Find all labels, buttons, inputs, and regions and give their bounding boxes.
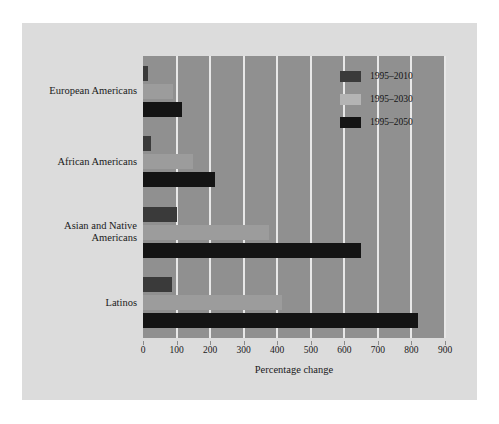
category-label-line: African Americans xyxy=(0,156,137,168)
plot-area: 1995–20101995–20301995–2050 xyxy=(143,56,445,338)
x-tick-label-700: 700 xyxy=(371,345,385,355)
bar-group xyxy=(143,277,445,328)
x-tick-label-600: 600 xyxy=(337,345,351,355)
legend-label: 1995–2010 xyxy=(370,71,413,81)
bar xyxy=(143,225,269,240)
x-axis-label: Percentage change xyxy=(143,364,445,375)
legend-item: 1995–2010 xyxy=(340,66,413,86)
bar-group xyxy=(143,136,445,187)
bar xyxy=(143,136,151,151)
x-tick-label-900: 900 xyxy=(438,345,452,355)
bar xyxy=(143,172,215,187)
bar xyxy=(143,243,361,258)
legend-item: 1995–2050 xyxy=(340,112,413,132)
x-tick-label-100: 100 xyxy=(169,345,183,355)
legend-swatch xyxy=(340,71,361,82)
category-label-line: Americans xyxy=(0,232,137,244)
category-label-line: Latinos xyxy=(0,297,137,309)
bar xyxy=(143,207,177,222)
category-label: Latinos xyxy=(0,297,137,309)
x-tick-label-300: 300 xyxy=(237,345,251,355)
legend-item: 1995–2030 xyxy=(340,89,413,109)
legend-swatch xyxy=(340,94,361,105)
category-label-line: European Americans xyxy=(0,85,137,97)
x-tick-label-800: 800 xyxy=(404,345,418,355)
legend-swatch xyxy=(340,117,361,128)
bar xyxy=(143,102,182,117)
bar xyxy=(143,277,172,292)
figure-panel: 1995–20101995–20301995–2050 European Ame… xyxy=(22,23,477,400)
bar xyxy=(143,154,193,169)
chart-legend: 1995–20101995–20301995–2050 xyxy=(340,66,413,135)
legend-label: 1995–2030 xyxy=(370,94,413,104)
bar xyxy=(143,84,173,99)
bar xyxy=(143,295,282,310)
category-label: Asian and NativeAmericans xyxy=(0,220,137,244)
x-tick-label-400: 400 xyxy=(270,345,284,355)
category-label: African Americans xyxy=(0,156,137,168)
x-tick-label-0: 0 xyxy=(141,345,146,355)
legend-label: 1995–2050 xyxy=(370,117,413,127)
category-label-line: Asian and Native xyxy=(0,220,137,232)
bar-group xyxy=(143,207,445,258)
x-tick-label-200: 200 xyxy=(203,345,217,355)
x-axis-ticks: 0100200300400500600700800900 xyxy=(143,341,445,357)
x-tick-label-500: 500 xyxy=(304,345,318,355)
category-label: European Americans xyxy=(0,85,137,97)
bar xyxy=(143,313,418,328)
bar xyxy=(143,66,148,81)
